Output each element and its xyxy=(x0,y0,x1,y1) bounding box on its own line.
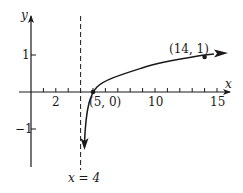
point-5-0 xyxy=(91,90,96,95)
x-axis-label: x xyxy=(225,77,232,91)
point-label-5-0: (5, 0) xyxy=(89,95,121,109)
point-label-14-1: (14, 1) xyxy=(169,42,209,56)
tick-label-10: 10 xyxy=(148,95,163,109)
tick-label-neg1: −1 xyxy=(15,122,33,136)
tick-label-2: 2 xyxy=(52,95,60,109)
tick-label-15: 15 xyxy=(210,95,225,109)
chart: x y 2 10 15 1 −1 (5, 0) (14, 1) x = 4 xyxy=(0,0,243,193)
y-axis-label: y xyxy=(20,8,28,22)
tick-label-1: 1 xyxy=(22,48,30,62)
curve-arrow-right xyxy=(214,50,228,58)
asymptote-label: x = 4 xyxy=(68,171,100,185)
